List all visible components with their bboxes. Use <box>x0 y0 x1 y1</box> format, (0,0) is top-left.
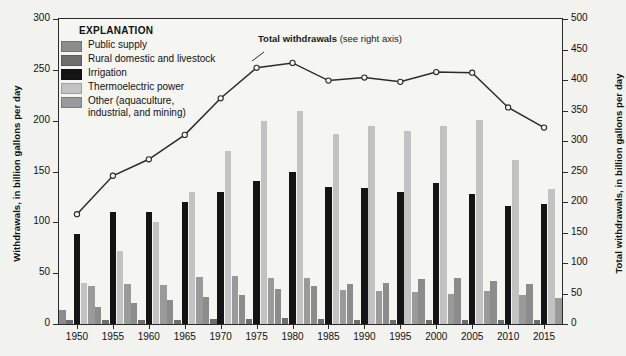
legend-swatch <box>61 83 82 94</box>
x-axis-tick <box>508 324 509 329</box>
y-axis-right-tick-label: 150 <box>571 226 588 237</box>
tick-mark <box>562 141 568 142</box>
legend-item-label: Rural domestic and livestock <box>88 53 215 65</box>
line-data-point: 2015: 322 <box>541 125 546 130</box>
line-data-point: 1985: 399 <box>326 78 331 83</box>
y-axis-left-tick-label: 300 <box>33 12 50 23</box>
x-axis-tick <box>436 324 437 329</box>
x-axis-tick <box>293 324 294 329</box>
tick-mark <box>562 111 568 112</box>
y-axis-right-tick-label: 400 <box>571 73 588 84</box>
legend-item-label: Other (aquaculture,industrial, and minin… <box>88 95 186 118</box>
line-data-point: 2010: 355 <box>506 105 511 110</box>
x-axis-tick <box>77 324 78 329</box>
legend-item-label-line2: industrial, and mining) <box>88 107 186 119</box>
line-data-point: 1960: 270 <box>146 157 151 162</box>
legend-item: Rural domestic and livestock <box>61 53 215 66</box>
x-axis-tick <box>257 324 258 329</box>
legend-item: Irrigation <box>61 67 215 80</box>
y-axis-left-tick-label: 50 <box>39 266 50 277</box>
y-axis-left-tick-label: 200 <box>33 114 50 125</box>
tick-mark <box>562 324 568 325</box>
tick-mark <box>562 172 568 173</box>
tick-mark <box>562 263 568 264</box>
line-data-point: 1950: 180 <box>74 212 79 217</box>
y-axis-right-tick-label: 250 <box>571 165 588 176</box>
line-data-point: 1975: 420 <box>254 65 259 70</box>
annotation-leader-line <box>252 52 264 61</box>
tick-mark <box>562 50 568 51</box>
y-axis-right-tick-label: 200 <box>571 195 588 206</box>
x-axis-tick <box>185 324 186 329</box>
line-data-point: 1990: 404 <box>362 75 367 80</box>
y-axis-right-title: Total withdrawals, in billion gallons pe… <box>613 59 624 289</box>
legend-item: Thermoelectric power <box>61 81 215 94</box>
x-axis-tick-label: 2015 <box>522 331 566 342</box>
y-axis-left-tick-label: 250 <box>33 63 50 74</box>
x-axis-tick <box>328 324 329 329</box>
x-axis-tick <box>221 324 222 329</box>
legend-item-label: Irrigation <box>88 67 127 79</box>
legend-swatch <box>61 97 82 108</box>
tick-mark <box>562 19 568 20</box>
legend-item-label: Public supply <box>88 39 147 51</box>
line-data-point: 1955: 243 <box>110 173 115 178</box>
x-axis-tick <box>400 324 401 329</box>
x-axis-tick <box>472 324 473 329</box>
tick-mark <box>562 202 568 203</box>
y-axis-right-tick-label: 0 <box>571 317 577 328</box>
y-axis-left-title: Withdrawals, in billion gallons per day <box>11 59 22 289</box>
line-data-point: 2000: 413 <box>434 69 439 74</box>
legend: EXPLANATION Public supplyRural domestic … <box>57 23 221 123</box>
x-axis-tick <box>364 324 365 329</box>
legend-item-label: Thermoelectric power <box>88 81 184 93</box>
x-axis-tick <box>113 324 114 329</box>
x-axis-tick <box>149 324 150 329</box>
legend-swatch <box>61 55 82 66</box>
tick-mark <box>562 80 568 81</box>
legend-item: Other (aquaculture,industrial, and minin… <box>61 95 215 118</box>
line-data-point: 1980: 428 <box>290 60 295 65</box>
legend-swatch <box>61 41 82 52</box>
y-axis-right-tick-label: 50 <box>571 287 582 298</box>
y-axis-right-tick-label: 500 <box>571 12 588 23</box>
line-data-point: 1965: 310 <box>182 132 187 137</box>
x-axis-tick <box>544 324 545 329</box>
y-axis-left-tick-label: 150 <box>33 165 50 176</box>
total-withdrawals-annotation: Total withdrawals (see right axis) <box>258 33 402 44</box>
y-axis-right-tick-label: 350 <box>571 104 588 115</box>
legend-swatch <box>61 69 82 80</box>
legend-title: EXPLANATION <box>79 25 215 36</box>
tick-mark <box>562 233 568 234</box>
y-axis-right-tick-label: 300 <box>571 134 588 145</box>
legend-items: Public supplyRural domestic and livestoc… <box>61 39 215 118</box>
y-axis-right-tick-label: 100 <box>571 256 588 267</box>
annotation-sub-text: (see right axis) <box>337 33 402 44</box>
line-data-point: 2005: 412 <box>470 70 475 75</box>
annotation-bold-text: Total withdrawals <box>258 33 337 44</box>
y-axis-left-tick-label: 100 <box>33 215 50 226</box>
legend-item: Public supply <box>61 39 215 52</box>
y-axis-left-tick-label: 0 <box>44 317 50 328</box>
tick-mark <box>53 324 59 325</box>
y-axis-right-tick-label: 450 <box>571 43 588 54</box>
line-data-point: 1995: 397 <box>398 79 403 84</box>
tick-mark <box>562 294 568 295</box>
chart-container: Withdrawals, in billion gallons per day … <box>0 0 626 356</box>
